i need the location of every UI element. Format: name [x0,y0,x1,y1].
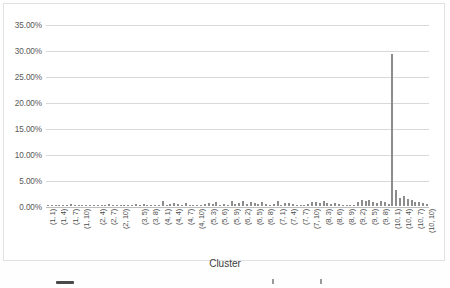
bar [143,204,145,206]
bar [139,205,141,206]
bar [127,205,129,206]
x-axis-tick-label: (2, 7) [109,209,118,225]
bar [311,202,313,206]
x-axis-tick-label: (10, 4) [404,209,413,229]
bar [204,204,206,206]
bar [326,203,328,206]
bar [108,204,110,206]
y-axis-label: 20.00% [2,99,42,108]
bar [250,202,252,206]
bar [300,205,302,206]
bar [353,205,355,206]
y-axis-label: 5.00% [2,177,42,186]
bar [296,205,298,206]
bar [246,204,248,206]
x-axis-tick-label: (4, 7) [186,209,195,225]
chart-frame: 35.00%30.00%25.00%20.00%15.00%10.00%5.00… [3,3,445,261]
x-axis-tick-label: (3, 5) [140,209,149,225]
bar [391,54,393,206]
bar [200,205,202,206]
x-axis-tick-label: (5, 6) [220,209,229,225]
bar [81,205,83,206]
bar [269,205,271,206]
y-axis-label: 0.00% [2,203,42,212]
x-axis-tick-label: (10, 7) [416,209,425,229]
y-axis-label: 25.00% [2,73,42,82]
x-axis-tick-label: (9, 8) [381,209,390,225]
bar [177,204,179,206]
bar [411,200,413,206]
y-axis-label: 15.00% [2,125,42,134]
x-axis-tick-labels: (1, 1)(1, 4)(1, 7)(1, 10)(2, 4)(2, 7)(2,… [46,209,429,257]
bar [85,205,87,206]
x-axis-tick-label: (7, 1) [278,209,287,225]
bar [418,202,420,206]
bar [357,202,359,206]
bar [70,204,72,206]
x-axis-tick-label: (6, 5) [255,209,264,225]
footer-artifact-dot-2 [320,279,322,284]
bar [422,203,424,206]
x-axis-tick-label: (8, 3) [324,209,333,225]
bar [131,205,133,206]
bar [315,202,317,206]
bar [166,205,168,206]
bar [307,204,309,206]
bar [135,204,137,206]
chart-screenshot: 35.00%30.00%25.00%20.00%15.00%10.00%5.00… [0,0,450,288]
x-axis-tick-label: (1, 10) [82,209,91,229]
x-axis-tick-label: (4, 1) [163,209,172,225]
bar [380,201,382,206]
bar [361,200,363,206]
bar [342,205,344,206]
bar [150,205,152,206]
bar [215,202,217,206]
bar [196,205,198,206]
bar [368,200,370,207]
bar [407,199,409,206]
x-axis-tick-label: (2, 4) [98,209,107,225]
bar [78,205,80,206]
bar [414,202,416,206]
x-axis-tick-label: (8, 9) [347,209,356,225]
bar [346,205,348,206]
bar [208,203,210,206]
x-axis-tick-label: (9, 2) [358,209,367,225]
bar [277,201,279,206]
bar [146,205,148,206]
bar [330,204,332,206]
bar [104,205,106,206]
bar [173,203,175,206]
y-axis-label: 35.00% [2,21,42,30]
bar [89,205,91,206]
bar [123,205,125,206]
bar [181,205,183,206]
bar [399,198,401,206]
bar [288,203,290,206]
bar [280,205,282,206]
bar [403,196,405,206]
bar [158,205,160,206]
bar [376,203,378,206]
bar [120,205,122,206]
bar [284,203,286,206]
bar [292,204,294,206]
bar [334,203,336,206]
bar [319,203,321,206]
bar [97,205,99,206]
x-axis-tick-label: (4, 10) [197,209,206,229]
x-axis-tick-label: (3, 8) [151,209,160,225]
bar [162,201,164,206]
x-axis-tick-label: (6, 2) [243,209,252,225]
bar [169,204,171,206]
bar [154,205,156,206]
x-axis-tick-label: (1, 1) [48,209,57,225]
x-axis-tick-label: (10, 10) [427,209,436,233]
x-axis-tick-label: (6, 8) [266,209,275,225]
bar-item[interactable] [425,25,429,206]
bar [58,205,60,206]
bar [388,204,390,206]
bar [223,204,225,206]
bar [185,203,187,206]
x-axis-tick-label: (5, 3) [209,209,218,225]
